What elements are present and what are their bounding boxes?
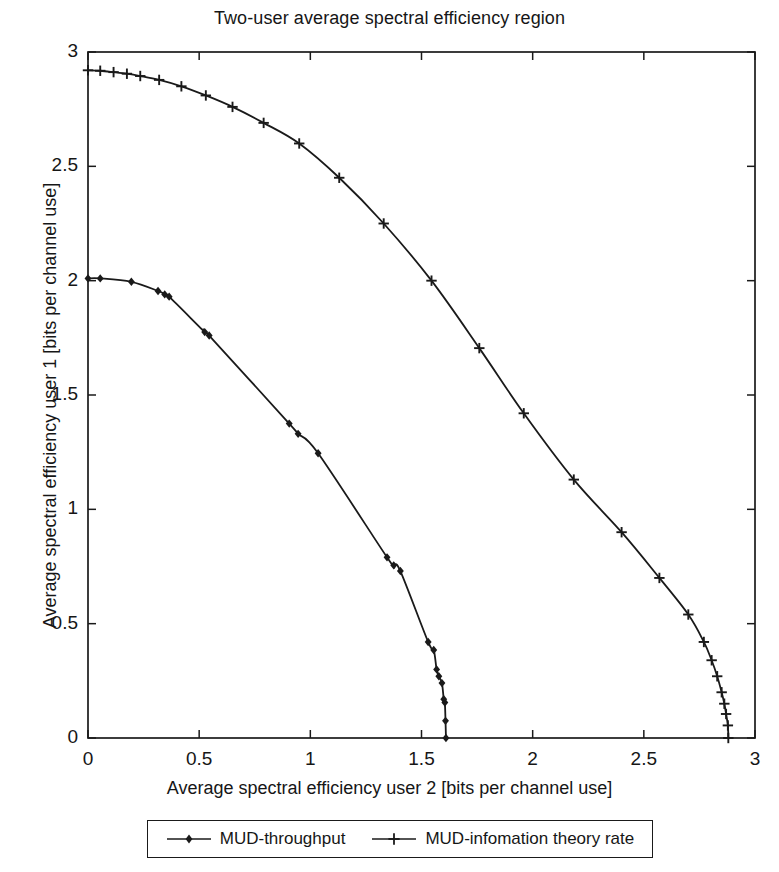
axes-frame xyxy=(88,52,755,738)
series-layer xyxy=(83,65,734,743)
x-tick-label: 0 xyxy=(58,748,118,770)
x-tick-label: 2.5 xyxy=(614,748,674,770)
x-tick-label: 1.5 xyxy=(392,748,452,770)
plot-canvas xyxy=(0,0,779,872)
series-2 xyxy=(83,65,734,743)
legend-entry-mud-throughput[interactable]: MUD-throughput xyxy=(166,829,346,849)
x-axis-label: Average spectral efficiency user 2 [bits… xyxy=(0,778,779,799)
diamond-marker-icon xyxy=(166,831,212,847)
x-tick-label: 2 xyxy=(503,748,563,770)
legend-label: MUD-infomation theory rate xyxy=(425,829,634,849)
x-tick-label: 0.5 xyxy=(169,748,229,770)
y-axis-label: Average spectral efficiency user 1 [bits… xyxy=(40,36,61,776)
x-tick-label: 1 xyxy=(280,748,340,770)
series-1 xyxy=(85,274,450,742)
figure: Two-user average spectral efficiency reg… xyxy=(0,0,779,872)
legend-entry-mud-information-theory-rate[interactable]: MUD-infomation theory rate xyxy=(371,829,634,849)
x-tick-label: 3 xyxy=(725,748,779,770)
plus-marker-icon xyxy=(371,831,417,847)
legend-label: MUD-throughput xyxy=(220,829,346,849)
legend: MUD-throughput MUD-infomation theory rat… xyxy=(147,820,653,858)
tick-marks xyxy=(88,52,755,738)
